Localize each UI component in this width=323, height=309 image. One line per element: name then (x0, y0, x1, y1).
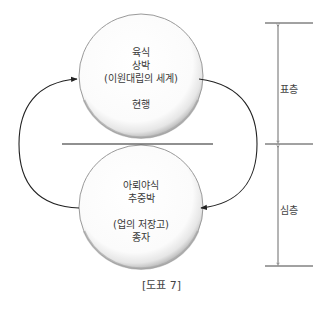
layer-bracket (265, 23, 313, 266)
top-circle-line-2: 상박 (79, 59, 203, 72)
top-circle-text: 육식 상박 (이원대립의 세계) 현행 (79, 46, 203, 111)
deep-layer-label: 심층 (280, 201, 298, 218)
top-circle-line-1: 육식 (79, 46, 203, 59)
figure-caption: [도표 7] (0, 276, 323, 292)
bottom-circle-line-2: 추중박 (79, 192, 203, 205)
surface-layer-label: 표층 (280, 80, 298, 97)
top-circle-line-3: (이원대립의 세계) (79, 72, 203, 85)
bottom-circle-line-3: (업의 저장고) (79, 218, 203, 231)
top-circle-line-4: 현행 (79, 98, 203, 111)
bottom-circle-text: 아뢰야식 추중박 (업의 저장고) 종자 (79, 179, 203, 244)
bottom-circle-line-4: 종자 (79, 231, 203, 244)
bottom-circle-line-1: 아뢰야식 (79, 179, 203, 192)
